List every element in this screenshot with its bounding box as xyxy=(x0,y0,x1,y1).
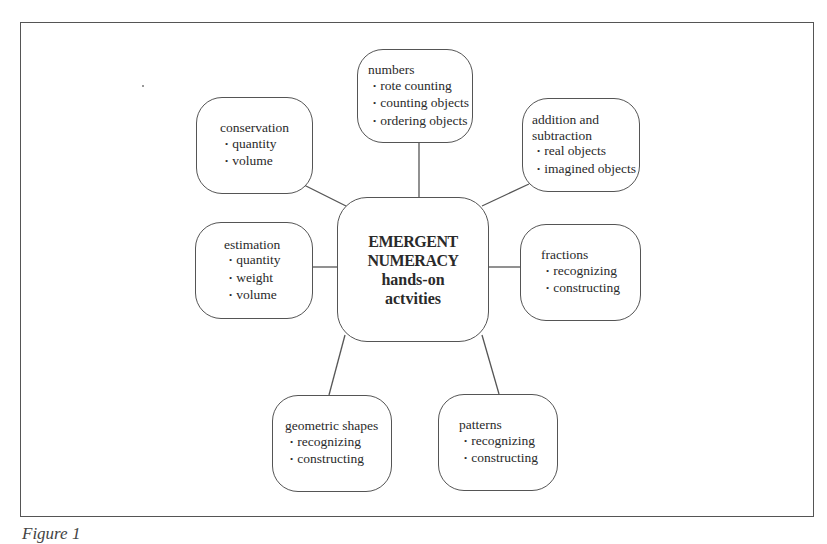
node-addition-subtraction: addition and subtraction real objects im… xyxy=(522,98,640,192)
node-item: quantity xyxy=(229,252,312,270)
node-items: recognizing constructing xyxy=(541,263,640,298)
center-line2: NUMERACY xyxy=(367,251,458,270)
connector-conservation xyxy=(304,185,346,206)
node-title-line2: subtraction xyxy=(532,128,639,144)
node-title: conservation xyxy=(220,120,312,136)
node-title: fractions xyxy=(541,247,640,263)
node-item: volume xyxy=(229,287,312,305)
node-item: constructing xyxy=(546,280,640,298)
node-center-emergent-numeracy: EMERGENT NUMERACY hands-on actvities xyxy=(337,197,489,342)
node-item: counting objects xyxy=(373,95,472,113)
node-item: ordering objects xyxy=(373,113,472,131)
node-geometric-shapes: geometric shapes recognizing constructin… xyxy=(272,395,392,492)
node-items: real objects imagined objects xyxy=(532,143,639,178)
node-items: recognizing constructing xyxy=(459,433,557,468)
node-numbers: numbers rote counting counting objects o… xyxy=(357,49,473,143)
node-title: patterns xyxy=(459,417,557,433)
node-item: recognizing xyxy=(464,433,557,451)
node-conservation: conservation quantity volume xyxy=(196,97,313,194)
node-items: quantity volume xyxy=(220,136,312,171)
connector-geometric xyxy=(329,335,345,395)
figure-caption: Figure 1 xyxy=(22,524,80,544)
node-title: estimation xyxy=(224,237,312,253)
node-title-line1: addition and xyxy=(532,112,639,128)
node-item: constructing xyxy=(290,451,391,469)
node-items: recognizing constructing xyxy=(285,434,391,469)
node-item: constructing xyxy=(464,450,557,468)
connector-patterns xyxy=(482,335,499,394)
node-title: geometric shapes xyxy=(285,418,391,434)
node-estimation: estimation quantity weight volume xyxy=(195,222,313,319)
connector-addition xyxy=(482,184,529,206)
node-item: recognizing xyxy=(290,434,391,452)
node-item: volume xyxy=(225,153,312,171)
node-item: rote counting xyxy=(373,78,472,96)
node-items: quantity weight volume xyxy=(224,252,312,305)
node-item: quantity xyxy=(225,136,312,154)
center-line4: actvities xyxy=(385,289,441,308)
node-item: imagined objects xyxy=(537,161,639,179)
node-item: weight xyxy=(229,270,312,288)
node-item: real objects xyxy=(537,143,639,161)
center-line1: EMERGENT xyxy=(368,232,457,251)
node-items: rote counting counting objects ordering … xyxy=(368,78,472,131)
node-title: numbers xyxy=(368,62,472,78)
center-line3: hands-on xyxy=(381,270,444,289)
node-item: recognizing xyxy=(546,263,640,281)
node-fractions: fractions recognizing constructing xyxy=(520,224,641,321)
node-patterns: patterns recognizing constructing xyxy=(438,394,558,491)
